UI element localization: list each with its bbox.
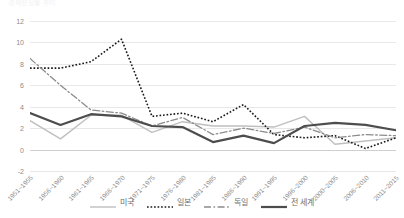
y-axis-tick: 6	[20, 82, 24, 89]
series-line	[30, 39, 396, 148]
legend-label: 일본	[177, 196, 191, 207]
y-axis-tick: 8	[20, 60, 24, 67]
series-layer	[30, 21, 396, 171]
y-axis-tick: 0	[20, 146, 24, 153]
chart-title: 경제성장률 추이	[8, 0, 56, 7]
series-line	[30, 113, 396, 143]
legend-swatch	[147, 197, 173, 205]
legend-item[interactable]: 독일	[204, 196, 248, 207]
y-axis-tick-labels: 121086420-2	[0, 21, 28, 171]
plot-area	[30, 21, 396, 171]
y-axis-tick: -2	[18, 168, 24, 175]
y-axis-tick: 10	[16, 39, 24, 46]
y-axis-tick: 2	[20, 125, 24, 132]
legend-item[interactable]: 미국	[90, 196, 134, 207]
chart-legend: 미국일본독일전 세계	[0, 192, 404, 210]
legend-swatch	[90, 197, 116, 205]
line-chart: 경제성장률 추이 121086420-2 1951~19551956~19601…	[0, 0, 404, 218]
legend-label: 독일	[234, 196, 248, 207]
legend-item[interactable]: 일본	[147, 196, 191, 207]
legend-item[interactable]: 전 세계	[261, 196, 314, 207]
y-axis-tick: 4	[20, 103, 24, 110]
legend-label: 미국	[120, 196, 134, 207]
legend-label: 전 세계	[291, 196, 314, 207]
y-axis-tick: 12	[16, 18, 24, 25]
legend-swatch	[261, 197, 287, 205]
series-line	[30, 115, 396, 144]
legend-swatch	[204, 197, 230, 205]
